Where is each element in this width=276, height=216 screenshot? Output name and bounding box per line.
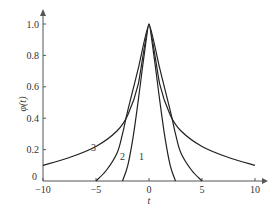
y-axis-title: φ(t) bbox=[17, 96, 29, 112]
y-tick-label: 1.0 bbox=[27, 19, 40, 30]
x-tick-label: −5 bbox=[91, 184, 102, 195]
curve-label-1: 1 bbox=[139, 151, 144, 162]
x-tick-label: 0 bbox=[147, 184, 152, 195]
axes bbox=[40, 9, 268, 184]
y-tick-label: 0.8 bbox=[27, 50, 40, 61]
curve-label-2: 2 bbox=[120, 151, 125, 162]
curve-1 bbox=[123, 24, 176, 181]
curves bbox=[43, 24, 255, 181]
curve-3 bbox=[43, 24, 255, 165]
chart-container: 00.20.40.60.81.0 −10−50510 φ(t) t 3 2 1 bbox=[0, 0, 276, 216]
curve-label-3: 3 bbox=[91, 142, 96, 153]
chart-svg: 00.20.40.60.81.0 −10−50510 φ(t) t 3 2 1 bbox=[0, 0, 276, 216]
x-tick-label: 5 bbox=[200, 184, 205, 195]
curve-2 bbox=[96, 24, 202, 181]
x-axis-arrow-icon bbox=[262, 178, 268, 184]
y-tick-label: 0.6 bbox=[27, 81, 40, 92]
y-tick-label: 0.2 bbox=[27, 144, 40, 155]
x-axis-title: t bbox=[148, 195, 151, 206]
y-tick-label: 0 bbox=[32, 171, 37, 182]
x-tick-label: 10 bbox=[250, 184, 260, 195]
y-axis-arrow-icon bbox=[40, 9, 46, 16]
x-tick-label: −10 bbox=[35, 184, 51, 195]
y-tick-label: 0.4 bbox=[27, 113, 40, 124]
